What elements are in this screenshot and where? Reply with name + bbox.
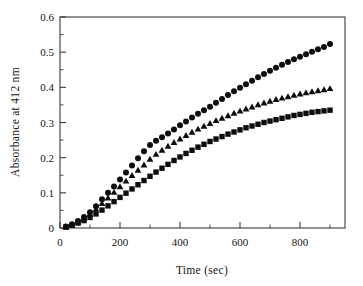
y-axis-ticks: [60, 17, 66, 228]
x-tick-label: 800: [292, 236, 309, 248]
data-point-square: [231, 129, 236, 134]
data-point-triangle: [207, 120, 214, 126]
data-point-circle: [141, 148, 147, 154]
data-point-circle: [273, 65, 279, 71]
data-point-triangle: [267, 98, 274, 104]
x-axis-title: Time (sec): [176, 264, 228, 277]
data-point-circle: [189, 115, 195, 121]
x-tick-label: 600: [232, 236, 249, 248]
data-point-square: [201, 142, 206, 147]
data-point-triangle: [177, 135, 184, 141]
data-point-circle: [321, 44, 327, 50]
data-point-circle: [309, 49, 315, 55]
data-point-square: [237, 127, 242, 132]
data-point-square: [105, 203, 110, 208]
data-point-triangle: [315, 87, 322, 93]
data-point-square: [195, 144, 200, 149]
data-point-square: [309, 110, 314, 115]
y-tick-label: 0.3: [40, 117, 54, 129]
data-point-triangle: [297, 90, 304, 96]
data-point-square: [75, 220, 80, 225]
data-point-triangle: [219, 115, 226, 121]
data-point-square: [93, 211, 98, 216]
data-point-triangle: [213, 117, 220, 123]
data-point-circle: [213, 100, 219, 106]
data-point-circle: [249, 78, 255, 84]
data-point-triangle: [279, 95, 286, 101]
data-point-circle: [135, 155, 141, 161]
data-point-triangle: [189, 129, 196, 135]
y-tick-label: 0: [49, 222, 55, 234]
y-axis-tick-labels: 00.10.20.30.40.50.6: [40, 11, 54, 234]
data-point-triangle: [135, 167, 142, 173]
data-point-square: [159, 166, 164, 171]
data-point-square: [147, 174, 152, 179]
data-point-triangle: [327, 85, 334, 91]
data-point-square: [135, 182, 140, 187]
data-point-triangle: [153, 151, 160, 157]
data-point-circle: [303, 51, 309, 57]
data-point-square: [297, 112, 302, 117]
data-point-triangle: [171, 139, 178, 145]
data-point-triangle: [249, 103, 256, 109]
data-point-triangle: [231, 110, 238, 116]
data-point-circle: [177, 122, 183, 128]
chart-plot: 00.10.20.30.40.50.6 0200400600800 Time (…: [0, 0, 363, 286]
data-point-triangle: [225, 112, 232, 118]
data-point-triangle: [285, 93, 292, 99]
data-point-square: [153, 169, 158, 174]
data-point-square: [285, 114, 290, 119]
data-point-circle: [147, 142, 153, 148]
data-point-triangle: [183, 132, 190, 138]
data-point-circle: [129, 162, 135, 168]
data-point-circle: [279, 62, 285, 68]
data-point-circle: [225, 92, 231, 98]
data-point-triangle: [303, 89, 310, 95]
data-point-square: [219, 134, 224, 139]
data-point-circle: [111, 184, 117, 190]
y-tick-label: 0.2: [40, 152, 54, 164]
x-tick-label: 200: [112, 236, 129, 248]
data-point-circle: [297, 54, 303, 60]
x-tick-label: 400: [172, 236, 189, 248]
data-point-square: [129, 186, 134, 191]
figure-container: 00.10.20.30.40.50.6 0200400600800 Time (…: [0, 0, 363, 286]
data-point-circle: [153, 138, 159, 144]
data-point-square: [207, 139, 212, 144]
data-point-square: [69, 222, 74, 227]
data-point-circle: [231, 88, 237, 94]
data-point-square: [81, 218, 86, 223]
data-point-square: [225, 131, 230, 136]
x-axis-ticks: [60, 222, 330, 228]
data-point-circle: [267, 68, 273, 74]
data-point-circle: [261, 71, 267, 77]
data-point-square: [213, 136, 218, 141]
y-axis-title: Absorbance at 412 nm: [9, 67, 21, 177]
data-point-square: [315, 109, 320, 114]
data-point-circle: [327, 41, 333, 47]
data-point-triangle: [141, 162, 148, 168]
data-point-square: [243, 125, 248, 130]
data-point-square: [87, 215, 92, 220]
data-point-square: [279, 116, 284, 121]
data-point-circle: [219, 96, 225, 102]
data-point-square: [165, 162, 170, 167]
data-point-triangle: [273, 96, 280, 102]
y-tick-label: 0.4: [40, 81, 54, 93]
data-point-square: [171, 158, 176, 163]
data-point-triangle: [111, 189, 118, 195]
data-point-circle: [159, 134, 165, 140]
data-point-triangle: [243, 106, 250, 112]
data-point-square: [291, 113, 296, 118]
y-tick-label: 0.1: [40, 187, 54, 199]
data-point-circle: [195, 111, 201, 117]
data-point-triangle: [147, 156, 154, 162]
data-point-square: [189, 148, 194, 153]
data-point-triangle: [165, 143, 172, 149]
data-point-circle: [165, 130, 171, 136]
data-point-square: [177, 154, 182, 159]
data-point-circle: [255, 74, 261, 80]
data-point-circle: [285, 59, 291, 65]
x-axis-tick-labels: 0200400600800: [57, 236, 309, 248]
data-point-square: [261, 120, 266, 125]
